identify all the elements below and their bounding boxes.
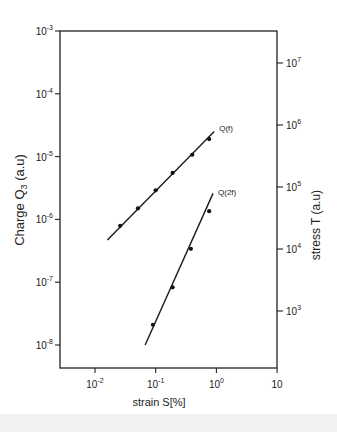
data-point-marker bbox=[151, 323, 155, 327]
left-y-axis-ticks: 10-310-410-510-610-710-8 bbox=[36, 24, 60, 351]
fit-line bbox=[107, 132, 214, 240]
series-label: Q(2f) bbox=[218, 188, 237, 197]
y-right-tick-label: 107 bbox=[286, 56, 301, 69]
data-point-marker bbox=[207, 137, 211, 141]
data-point-marker bbox=[207, 209, 211, 213]
y-axis-title-left: Charge Q3 (a.u) bbox=[12, 154, 29, 246]
data-point-marker bbox=[171, 171, 175, 175]
series-label: Q(f) bbox=[219, 124, 233, 133]
x-axis-ticks: 10-210-110010 bbox=[86, 368, 283, 390]
y-left-tick-label: 10-6 bbox=[36, 212, 53, 225]
y-right-tick-label: 103 bbox=[286, 304, 301, 317]
y-axis-title-right: stress T (a.u) bbox=[309, 190, 323, 260]
x-tick-label: 100 bbox=[209, 377, 224, 390]
series-q-f: Q(f) bbox=[107, 124, 233, 240]
x-tick-label: 10 bbox=[272, 379, 284, 390]
y-left-tick-label: 10-3 bbox=[36, 24, 53, 37]
y-right-tick-label: 106 bbox=[286, 118, 301, 131]
data-point-marker bbox=[118, 224, 122, 228]
x-axis-title: strain S[%] bbox=[132, 396, 185, 408]
log-log-chart: 10-210-110010 10-310-410-510-610-710-8 1… bbox=[0, 0, 337, 432]
series-layer: Q(f)Q(2f) bbox=[107, 124, 236, 345]
y-left-tick-label: 10-8 bbox=[36, 338, 53, 351]
y-right-tick-label: 104 bbox=[286, 242, 301, 255]
x-tick-label: 10-2 bbox=[86, 377, 103, 390]
right-y-axis-ticks: 107106105104103 bbox=[277, 56, 301, 317]
y-left-tick-label: 10-5 bbox=[36, 150, 53, 163]
data-point-marker bbox=[171, 285, 175, 289]
data-point-marker bbox=[136, 206, 140, 210]
y-left-tick-label: 10-4 bbox=[36, 87, 53, 100]
data-point-marker bbox=[154, 188, 158, 192]
data-point-marker bbox=[189, 247, 193, 251]
x-tick-label: 10-1 bbox=[147, 377, 164, 390]
y-left-tick-label: 10-7 bbox=[36, 275, 53, 288]
y-right-tick-label: 105 bbox=[286, 180, 301, 193]
data-point-marker bbox=[190, 153, 194, 157]
fit-line bbox=[145, 193, 213, 345]
series-q-2f: Q(2f) bbox=[145, 188, 236, 345]
plot-frame bbox=[60, 31, 277, 368]
